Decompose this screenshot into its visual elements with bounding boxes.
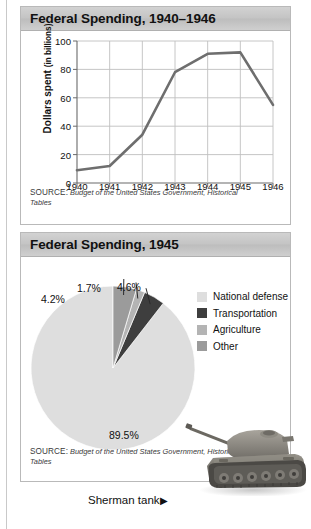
pie-value-label: 89.5% <box>109 429 139 441</box>
caption-arrow-icon: ▶ <box>160 495 168 506</box>
legend-label: Transportation <box>213 308 277 319</box>
line-chart-body: Dollars spent (in billions) 100806040200… <box>21 31 290 224</box>
pie-value-label: 4.6% <box>117 281 141 293</box>
pie-chart-legend: National defenseTransportationAgricultur… <box>197 291 288 357</box>
tank-caption: Sherman tank▶ <box>88 494 168 506</box>
line-chart-title: Federal Spending, 1940–1946 <box>21 7 290 31</box>
pie-value-label: 1.7% <box>77 282 101 294</box>
line-chart-source: SOURCE: Budget of the United States Gove… <box>30 188 260 207</box>
pie-chart-panel: Federal Spending, 1945 89.5%4.2%1.7%4.6%… <box>20 232 291 482</box>
legend-label: Agriculture <box>213 324 261 335</box>
page-left-rule <box>6 0 7 529</box>
legend-item: National defense <box>197 291 288 302</box>
legend-swatch-icon <box>197 341 207 351</box>
legend-label: National defense <box>213 291 288 302</box>
legend-item: Transportation <box>197 308 288 319</box>
line-chart-panel: Federal Spending, 1940–1946 Dollars spen… <box>20 6 291 225</box>
legend-item: Other <box>197 341 288 352</box>
legend-swatch-icon <box>197 325 207 335</box>
legend-item: Agriculture <box>197 324 288 335</box>
legend-label: Other <box>213 341 238 352</box>
pie-chart-source: SOURCE: Budget of the United States Gove… <box>30 447 260 466</box>
pie-value-label: 4.2% <box>41 293 65 305</box>
pie-chart-plot <box>25 275 205 475</box>
pie-chart-body: 89.5%4.2%1.7%4.6% National defenseTransp… <box>21 257 290 481</box>
legend-swatch-icon <box>197 308 207 318</box>
pie-chart-title: Federal Spending, 1945 <box>21 233 290 257</box>
legend-swatch-icon <box>197 292 207 302</box>
